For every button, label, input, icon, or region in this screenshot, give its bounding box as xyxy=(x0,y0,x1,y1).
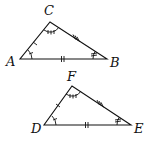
angle-mark-b xyxy=(91,52,97,60)
triangle-def: D E F xyxy=(30,69,144,136)
tick-ac xyxy=(33,42,37,45)
congruent-triangles-diagram: A B C xyxy=(0,0,149,146)
triangle-abc: A B C xyxy=(5,3,120,70)
angle-mark-c xyxy=(44,27,59,35)
vertex-label-b: B xyxy=(109,55,120,70)
vertex-label-e: E xyxy=(133,121,144,136)
vertex-label-c: C xyxy=(44,3,54,18)
angle-mark-a xyxy=(28,50,33,59)
vertex-label-a: A xyxy=(5,54,15,69)
angle-mark-d xyxy=(52,116,57,125)
vertex-label-f: F xyxy=(66,69,77,84)
vertex-label-d: D xyxy=(30,121,42,136)
angle-mark-e xyxy=(115,118,121,126)
